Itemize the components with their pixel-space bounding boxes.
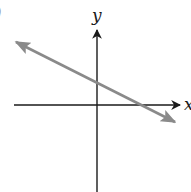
plotted-line bbox=[16, 42, 175, 122]
x-axis-label: x bbox=[184, 94, 191, 114]
coordinate-graph: ) x y bbox=[0, 0, 191, 192]
corner-mark: ) bbox=[0, 5, 1, 21]
y-axis-label: y bbox=[91, 5, 102, 25]
